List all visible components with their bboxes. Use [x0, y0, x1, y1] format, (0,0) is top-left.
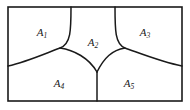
figure-container: A1 A2 A3 A4 A5 [0, 0, 190, 110]
diagram-background [0, 0, 190, 110]
region-partition-diagram: A1 A2 A3 A4 A5 [0, 0, 190, 110]
